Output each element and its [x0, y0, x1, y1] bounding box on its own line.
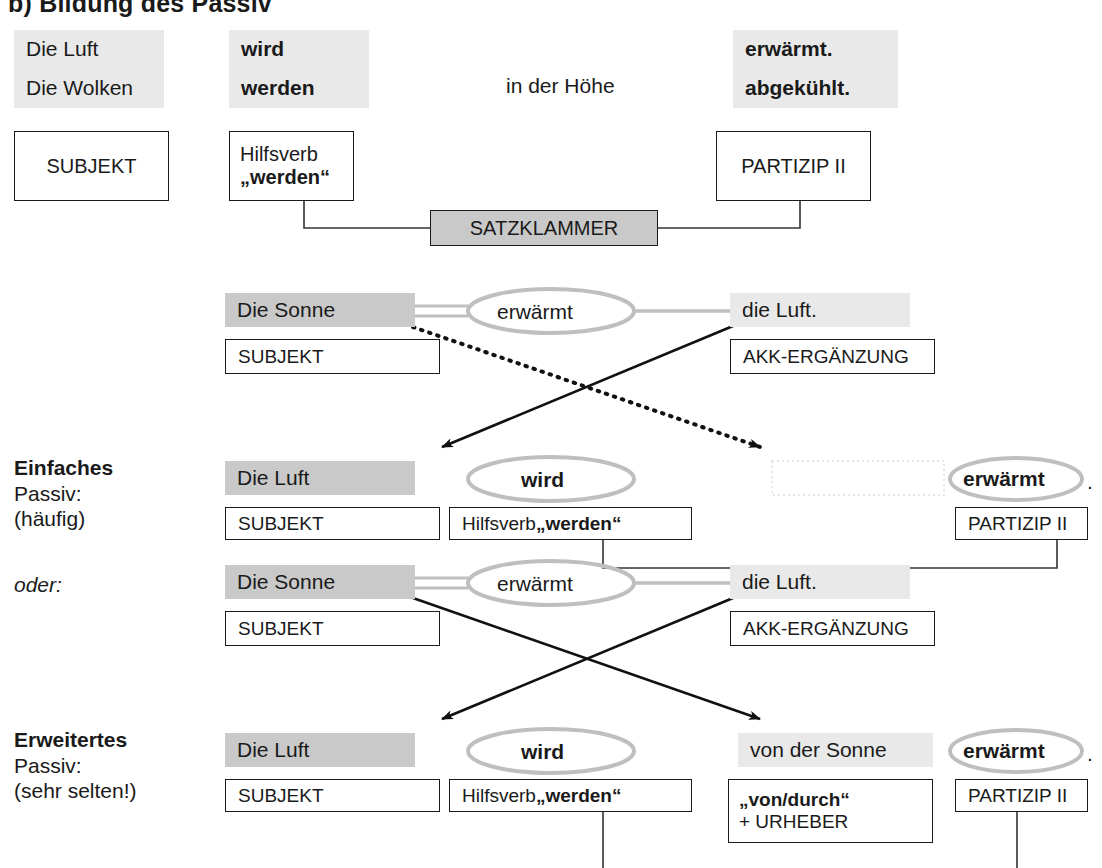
s3-oder-label: oder: [14, 573, 62, 597]
s2-active-box-object-text: AKK-ERGÄNZUNG [743, 346, 909, 368]
empty-agent-slot-1 [772, 461, 944, 495]
s1-box-aux-line2: „werden“ [240, 166, 353, 189]
s2-passive-participle: erwärmt [963, 467, 1045, 491]
s2-passive-box-subject-text: SUBJEKT [238, 513, 324, 535]
s2-passive-box-aux-bold: „werden“ [536, 513, 622, 535]
s3-active-box-subject: SUBJEKT [225, 611, 440, 646]
s2-passive-period: . [1087, 470, 1093, 494]
s2-passive-subject: Die Luft [225, 461, 415, 495]
s3-passive-subject: Die Luft [225, 733, 415, 767]
s3-passive-participle: erwärmt [963, 739, 1045, 763]
s3-passive-box-aux-plain: Hilfsverb [462, 785, 536, 807]
s1-aux-line1: wird [229, 30, 369, 67]
s1-participle-line1-text: erwärmt. [745, 37, 833, 61]
s3-caption-line3: (sehr selten!) [14, 778, 137, 804]
s1-subject-line2: Die Wolken [14, 67, 164, 108]
s3-passive-box-aux: Hilfsverb „werden“ [449, 779, 692, 812]
s3-passive-box-participle-text: PARTIZIP II [968, 785, 1067, 807]
s2-active-object: die Luft. [730, 293, 910, 327]
s3-active-subject: Die Sonne [225, 565, 415, 599]
s3-active-object-text: die Luft. [742, 570, 817, 594]
arrow-object-to-subject-1 [442, 326, 733, 447]
s1-aux-line2: werden [229, 67, 369, 108]
s1-box-satzklammer: SATZKLAMMER [430, 210, 658, 246]
s3-row-caption: Erweitertes Passiv: (sehr selten!) [14, 727, 137, 804]
s1-participle-line2-text: abgekühlt. [745, 76, 850, 100]
s3-active-box-subject-text: SUBJEKT [238, 618, 324, 640]
s3-passive-aux: wird [521, 740, 564, 764]
s2-passive-box-aux-plain: Hilfsverb [462, 513, 536, 535]
arrow-subject-to-agent-1 [413, 327, 760, 447]
s1-box-participle-text: PARTIZIP II [741, 155, 845, 178]
s2-active-box-subject-text: SUBJEKT [238, 346, 324, 368]
s1-subject-line2-text: Die Wolken [26, 76, 133, 100]
s3-active-subject-text: Die Sonne [237, 570, 335, 594]
s3-active-verb: erwärmt [497, 572, 573, 596]
s3-caption-head: Erweitertes [14, 727, 137, 753]
s1-participle-line1: erwärmt. [733, 30, 898, 67]
s3-passive-box-agent-line1: „von/durch“ [739, 789, 932, 811]
s2-passive-box-subject: SUBJEKT [225, 507, 440, 540]
s3-active-box-object-text: AKK-ERGÄNZUNG [743, 618, 909, 640]
s3-passive-agent-text: von der Sonne [750, 738, 887, 762]
s3-passive-box-agent: „von/durch“ + URHEBER [728, 779, 933, 843]
s1-box-satzklammer-text: SATZKLAMMER [470, 217, 619, 240]
s1-aux-line2-text: werden [241, 76, 315, 100]
s3-passive-subject-text: Die Luft [237, 738, 309, 762]
arrow-object-to-subject-2 [442, 598, 733, 719]
s2-active-object-text: die Luft. [742, 298, 817, 322]
s2-caption-line2: Passiv: [14, 481, 113, 507]
s3-passive-agent: von der Sonne [738, 733, 933, 767]
satzklammer-bracket-1 [603, 538, 1057, 568]
s3-passive-box-subject-text: SUBJEKT [238, 785, 324, 807]
s3-active-object: die Luft. [730, 565, 910, 599]
page-title: b) Bildung des Passiv [8, 0, 272, 18]
s3-passive-box-participle: PARTIZIP II [955, 779, 1088, 812]
arrow-subject-to-agent-2 [413, 598, 760, 719]
s2-passive-subject-text: Die Luft [237, 466, 309, 490]
s2-active-subject: Die Sonne [225, 293, 415, 327]
s2-caption-line3: (häufig) [14, 506, 113, 532]
s2-passive-box-participle-text: PARTIZIP II [968, 513, 1067, 535]
s3-active-box-object: AKK-ERGÄNZUNG [730, 611, 935, 646]
s2-active-subject-text: Die Sonne [237, 298, 335, 322]
s1-box-subject: SUBJEKT [14, 131, 169, 201]
s3-passive-box-aux-bold: „werden“ [536, 785, 622, 807]
s3-passive-period: . [1087, 742, 1093, 766]
s1-subject-line1-text: Die Luft [26, 37, 98, 61]
s1-participle-line2: abgekühlt. [733, 67, 898, 108]
s3-passive-box-agent-line2: + URHEBER [739, 811, 932, 833]
s2-row-caption: Einfaches Passiv: (häufig) [14, 455, 113, 532]
s1-aux-line1-text: wird [241, 37, 284, 61]
s1-middle-phrase: in der Höhe [506, 74, 615, 98]
s2-passive-box-participle: PARTIZIP II [955, 507, 1088, 540]
s1-box-aux: Hilfsverb „werden“ [229, 131, 354, 201]
s2-passive-aux: wird [521, 468, 564, 492]
s2-active-box-subject: SUBJEKT [225, 339, 440, 374]
s2-active-verb: erwärmt [497, 300, 573, 324]
s2-caption-head: Einfaches [14, 455, 113, 481]
s1-box-participle: PARTIZIP II [716, 131, 871, 201]
s1-subject-line1: Die Luft [14, 30, 164, 67]
s3-passive-box-subject: SUBJEKT [225, 779, 440, 812]
s2-passive-box-aux: Hilfsverb „werden“ [449, 507, 692, 540]
s1-box-aux-line1: Hilfsverb [240, 143, 353, 166]
s1-box-subject-text: SUBJEKT [46, 155, 136, 178]
s3-caption-line2: Passiv: [14, 753, 137, 779]
s2-active-box-object: AKK-ERGÄNZUNG [730, 339, 935, 374]
passive-voice-diagram: b) Bildung des Passiv Die Luft Die Wolke… [0, 0, 1102, 868]
